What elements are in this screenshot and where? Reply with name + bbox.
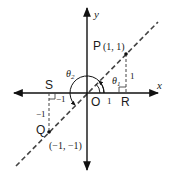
length-or-label: 1: [107, 96, 112, 106]
point-q: [47, 130, 51, 134]
point-p-coords: (1, 1): [103, 41, 125, 53]
y-axis-label: y: [93, 8, 99, 20]
length-so-label: −1: [56, 94, 66, 104]
coordinate-diagram: y x O P (1, 1) R S Q (−1, −1) 1 1 −1 −1 …: [0, 0, 174, 183]
theta1-label: θ1: [112, 75, 120, 88]
point-q-coords: (−1, −1): [49, 140, 82, 152]
right-angle-s: [49, 93, 55, 99]
point-p-label: P: [93, 39, 101, 53]
length-qs-label: −1: [36, 109, 46, 119]
length-pr-label: 1: [130, 71, 135, 81]
point-p: [124, 52, 128, 56]
x-axis-label: x: [156, 79, 162, 91]
point-r-label: R: [121, 95, 130, 109]
point-s-label: S: [45, 78, 53, 92]
theta2-label: θ2: [66, 68, 75, 81]
origin-label: O: [91, 95, 100, 109]
point-q-label: Q: [36, 123, 45, 137]
